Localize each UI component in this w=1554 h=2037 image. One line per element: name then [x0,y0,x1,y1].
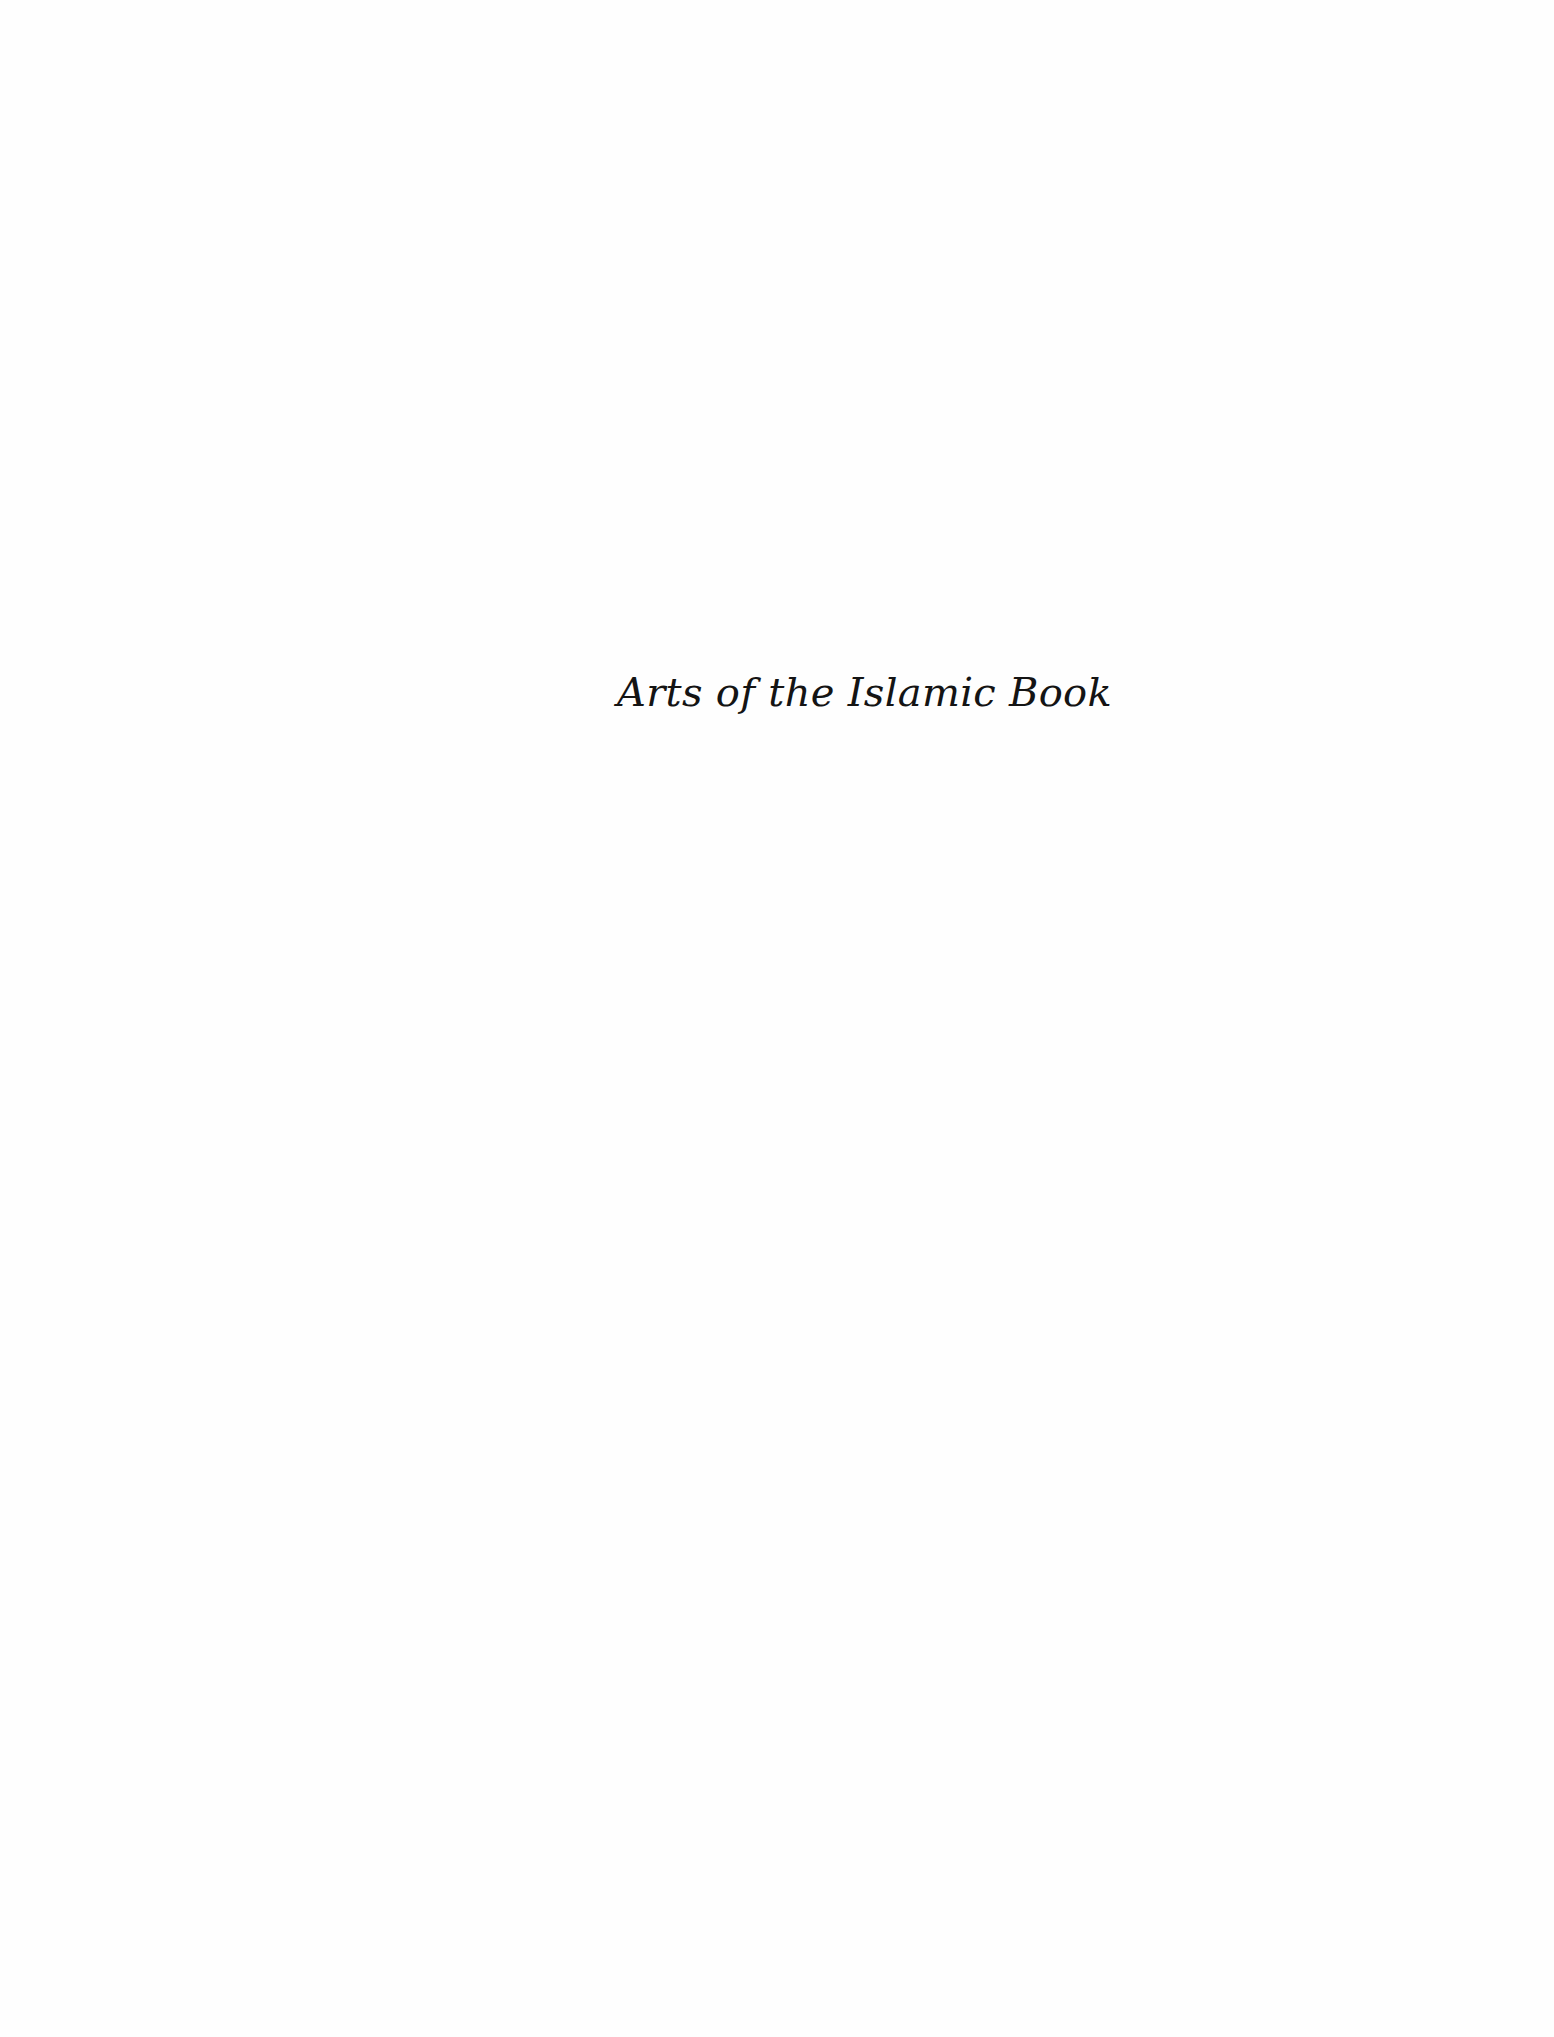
book-page: Arts of the Islamic Book [0,0,1554,2037]
half-title: Arts of the Islamic Book [617,662,1112,722]
